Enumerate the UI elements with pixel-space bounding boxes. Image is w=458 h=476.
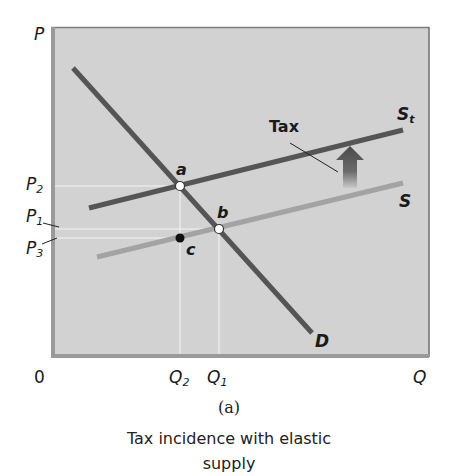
p2-letter: P bbox=[26, 174, 36, 194]
p1-letter: P bbox=[26, 206, 36, 226]
q1-letter: Q bbox=[207, 367, 220, 387]
point-a-label: a bbox=[176, 160, 187, 179]
point-b-label: b bbox=[217, 203, 228, 222]
q1-subscript: 1 bbox=[220, 376, 227, 389]
point-a-marker bbox=[176, 182, 185, 191]
p3-label: P3 bbox=[26, 238, 43, 260]
p1-subscript: 1 bbox=[36, 215, 43, 228]
demand-label: D bbox=[315, 331, 329, 351]
y-axis-label: P bbox=[34, 24, 44, 44]
p1-label: P1 bbox=[26, 206, 43, 228]
panel-label: (a) bbox=[0, 398, 458, 417]
caption-line-1: Tax incidence with elastic bbox=[0, 429, 458, 448]
supply-tax-subscript: t bbox=[409, 113, 414, 126]
q2-subscript: 2 bbox=[182, 376, 189, 389]
x-axis-label: Q bbox=[413, 367, 426, 387]
p3-letter: P bbox=[26, 238, 36, 258]
point-c-marker bbox=[176, 234, 185, 243]
tax-label: Tax bbox=[269, 117, 299, 136]
p2-label: P2 bbox=[26, 174, 43, 196]
point-b-marker bbox=[215, 225, 224, 234]
q2-letter: Q bbox=[169, 367, 182, 387]
origin-label: 0 bbox=[34, 367, 45, 387]
point-c-label: c bbox=[186, 240, 195, 259]
caption-line-2: supply bbox=[0, 454, 458, 473]
supply-tax-label: St bbox=[397, 104, 415, 126]
supply-tax-letter: S bbox=[397, 104, 409, 124]
q1-label: Q1 bbox=[207, 367, 227, 389]
p2-subscript: 2 bbox=[36, 183, 43, 196]
supply-label: S bbox=[399, 191, 411, 211]
q2-label: Q2 bbox=[169, 367, 189, 389]
p3-subscript: 3 bbox=[36, 247, 43, 260]
